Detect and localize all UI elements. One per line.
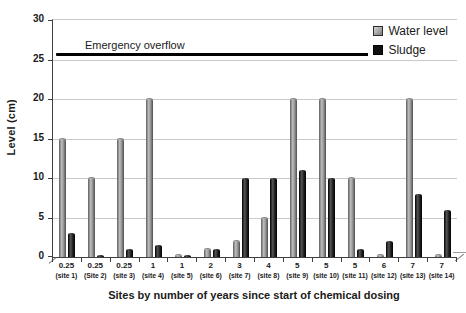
y-axis-tick-label: 5 <box>0 211 44 223</box>
x-axis-label-5: 1(site 5) <box>167 261 196 280</box>
bar-water-level <box>59 139 66 258</box>
y-axis-tick-label: 10 <box>0 171 44 183</box>
bar-sludge <box>270 178 277 257</box>
bar-chart: Level (cm) 051015202530 Emergency overfl… <box>0 0 466 313</box>
bar-sludge <box>126 249 133 257</box>
y-axis-title: Level (cm) <box>5 99 17 155</box>
x-axis-label-years: 4 <box>254 261 283 271</box>
bar-water-level <box>233 241 240 257</box>
bar-water-level <box>319 99 326 257</box>
bar-sludge <box>444 210 451 257</box>
x-axis-label-site: (site 12) <box>369 271 398 280</box>
x-axis-label-site: (Site 2) <box>81 271 110 280</box>
y-axis-tick-label: 30 <box>0 13 44 25</box>
bar-sludge <box>68 233 75 257</box>
y-axis-tick-label: 0 <box>0 250 44 262</box>
x-axis-label-site: (site 5) <box>167 271 196 280</box>
water-level-swatch-icon <box>373 26 383 36</box>
bar-sludge <box>155 245 162 257</box>
x-axis-label-years: 0.25 <box>81 261 110 271</box>
x-axis-label-site: (site 11) <box>341 271 370 280</box>
x-axis-label-years: 0.25 <box>52 261 81 271</box>
legend-label-sludge: Sludge <box>388 43 425 57</box>
x-axis-label-site: (site 9) <box>283 271 312 280</box>
bar-sludge <box>299 170 306 257</box>
y-axis-tick-label: 15 <box>0 132 44 144</box>
x-axis-tick <box>456 258 457 262</box>
sludge-swatch-icon <box>373 45 383 55</box>
bar-water-level <box>261 218 268 258</box>
x-axis-label-2: 0.25(Site 2) <box>81 261 110 280</box>
y-axis-tick-label: 20 <box>0 92 44 104</box>
legend-item-sludge: Sludge <box>373 43 448 57</box>
x-axis-label-1: 0.25(site 1) <box>52 261 81 280</box>
bar-water-level <box>290 99 297 257</box>
bar-water-level <box>348 178 355 257</box>
emergency-overflow-label: Emergency overflow <box>85 39 185 51</box>
bar-sludge <box>386 241 393 257</box>
x-axis-label-7: 3(site 7) <box>225 261 254 280</box>
x-axis-label-13: 7(site 13) <box>398 261 427 280</box>
bar-water-level <box>117 139 124 258</box>
x-axis-label-14: 7(site 14) <box>427 261 456 280</box>
bar-water-level <box>377 255 384 257</box>
bar-water-level <box>435 255 442 257</box>
bar-water-level <box>406 99 413 257</box>
bar-sludge <box>242 178 249 257</box>
x-axis-labels: 0.25(site 1)0.25(Site 2)0.25(site 3)1(si… <box>52 261 456 280</box>
x-axis-label-site: (site 7) <box>225 271 254 280</box>
x-axis-label-years: 5 <box>341 261 370 271</box>
plot-area: Emergency overflow Water level Sludge <box>52 19 457 258</box>
x-axis-label-site: (site 1) <box>52 271 81 280</box>
x-axis-label-site: (site 10) <box>312 271 341 280</box>
legend: Water level Sludge <box>368 22 453 60</box>
x-axis-label-site: (site 14) <box>427 271 456 280</box>
x-axis-label-years: 7 <box>398 261 427 271</box>
x-axis-label-site: (site 6) <box>196 271 225 280</box>
x-axis-label-8: 4(site 8) <box>254 261 283 280</box>
x-axis-label-3: 0.25(site 3) <box>110 261 139 280</box>
bar-water-level <box>204 249 211 257</box>
x-axis-label-site: (site 4) <box>139 271 168 280</box>
x-axis-label-years: 7 <box>427 261 456 271</box>
bar-sludge <box>328 178 335 257</box>
x-axis-label-site: (site 13) <box>398 271 427 280</box>
bar-sludge <box>184 255 191 257</box>
bar-water-level <box>88 178 95 257</box>
x-axis-label-site: (site 8) <box>254 271 283 280</box>
bar-water-level <box>146 99 153 257</box>
x-axis-label-12: 6(site 12) <box>369 261 398 280</box>
x-axis-label-years: 6 <box>369 261 398 271</box>
x-axis-label-6: 2(site 6) <box>196 261 225 280</box>
x-axis-label-years: 5 <box>283 261 312 271</box>
x-axis-label-years: 2 <box>196 261 225 271</box>
x-axis-label-years: 5 <box>312 261 341 271</box>
x-axis-label-9: 5(site 9) <box>283 261 312 280</box>
x-axis-title: Sites by number of years since start of … <box>52 289 456 301</box>
bar-water-level <box>175 255 182 257</box>
x-axis-label-years: 1 <box>167 261 196 271</box>
x-axis-label-11: 5(site 11) <box>341 261 370 280</box>
legend-label-water-level: Water level <box>388 24 448 38</box>
x-axis-label-years: 0.25 <box>110 261 139 271</box>
y-axis-tick-label: 25 <box>0 53 44 65</box>
bar-sludge <box>213 249 220 257</box>
bar-sludge <box>357 249 364 257</box>
legend-item-water-level: Water level <box>373 24 448 38</box>
x-axis-label-4: 1(site 4) <box>139 261 168 280</box>
x-axis-label-10: 5(site 10) <box>312 261 341 280</box>
x-axis-label-site: (site 3) <box>110 271 139 280</box>
x-axis-label-years: 3 <box>225 261 254 271</box>
x-axis-label-years: 1 <box>139 261 168 271</box>
bar-sludge <box>415 194 422 257</box>
bar-sludge <box>97 255 104 257</box>
